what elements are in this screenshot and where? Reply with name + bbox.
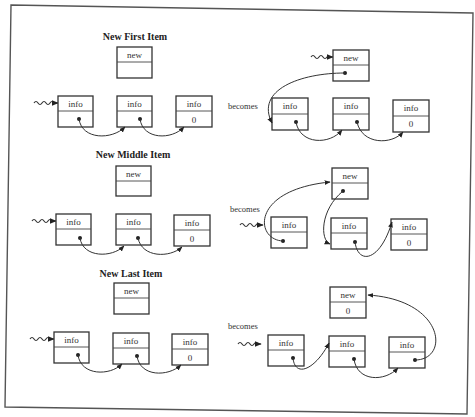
svg-text:info: info <box>185 218 200 228</box>
list-node: info <box>389 337 425 368</box>
svg-text:0: 0 <box>188 353 193 363</box>
svg-text:info: info <box>402 222 417 232</box>
svg-text:info: info <box>68 99 83 109</box>
svg-text:new: new <box>344 53 359 63</box>
list-node: info 0 <box>393 100 429 132</box>
list-node: info <box>268 335 304 366</box>
svg-text:info: info <box>342 221 357 231</box>
svg-text:info: info <box>344 101 359 111</box>
list-node: info 0 <box>176 96 212 127</box>
svg-text:info: info <box>282 220 297 230</box>
svg-text:info: info <box>127 99 142 109</box>
list-node: info <box>329 336 365 367</box>
new-node: new <box>333 50 369 81</box>
new-node: new <box>117 47 152 78</box>
svg-text:info: info <box>340 339 355 349</box>
list-node: info <box>58 96 93 127</box>
svg-text:info: info <box>124 336 139 346</box>
svg-text:new: new <box>341 290 356 300</box>
section-title: New Last Item <box>100 268 163 279</box>
svg-text:new: new <box>124 286 139 296</box>
list-node: info <box>333 98 369 130</box>
svg-text:info: info <box>283 101 298 111</box>
svg-text:info: info <box>400 340 415 350</box>
svg-text:info: info <box>64 335 79 345</box>
list-node: info <box>331 218 367 249</box>
svg-text:0: 0 <box>409 119 414 129</box>
list-node: info <box>272 98 308 130</box>
becomes-label: becomes <box>230 204 260 214</box>
list-node: info <box>54 332 89 363</box>
list-node: info 0 <box>172 334 208 365</box>
new-node: new 0 <box>330 287 366 318</box>
svg-text:info: info <box>183 337 198 347</box>
new-node: new <box>116 166 151 196</box>
section-title: New First Item <box>103 31 168 42</box>
list-node: info <box>116 214 151 245</box>
svg-text:new: new <box>126 169 141 179</box>
svg-text:0: 0 <box>346 306 351 316</box>
svg-text:info: info <box>66 217 81 227</box>
list-node: info <box>113 333 149 364</box>
svg-text:info: info <box>404 103 419 113</box>
svg-text:0: 0 <box>192 115 197 125</box>
list-node: info <box>117 96 152 127</box>
svg-text:new: new <box>127 50 142 60</box>
list-node: info 0 <box>174 215 210 246</box>
svg-text:info: info <box>187 99 202 109</box>
section-title: New Middle Item <box>96 149 171 160</box>
svg-text:0: 0 <box>407 238 412 248</box>
list-node: info <box>271 217 307 248</box>
svg-text:0: 0 <box>190 234 195 244</box>
svg-text:new: new <box>343 171 358 181</box>
becomes-label: becomes <box>228 101 258 111</box>
becomes-label: becomes <box>228 321 258 331</box>
new-node: new <box>332 168 368 199</box>
svg-text:info: info <box>126 217 141 227</box>
linked-list-insertion-diagram: New First Item new info info info 0 <box>0 0 475 417</box>
svg-text:info: info <box>279 338 294 348</box>
list-node: info 0 <box>391 219 427 250</box>
list-node: info <box>56 214 91 245</box>
new-node: new <box>114 283 149 314</box>
